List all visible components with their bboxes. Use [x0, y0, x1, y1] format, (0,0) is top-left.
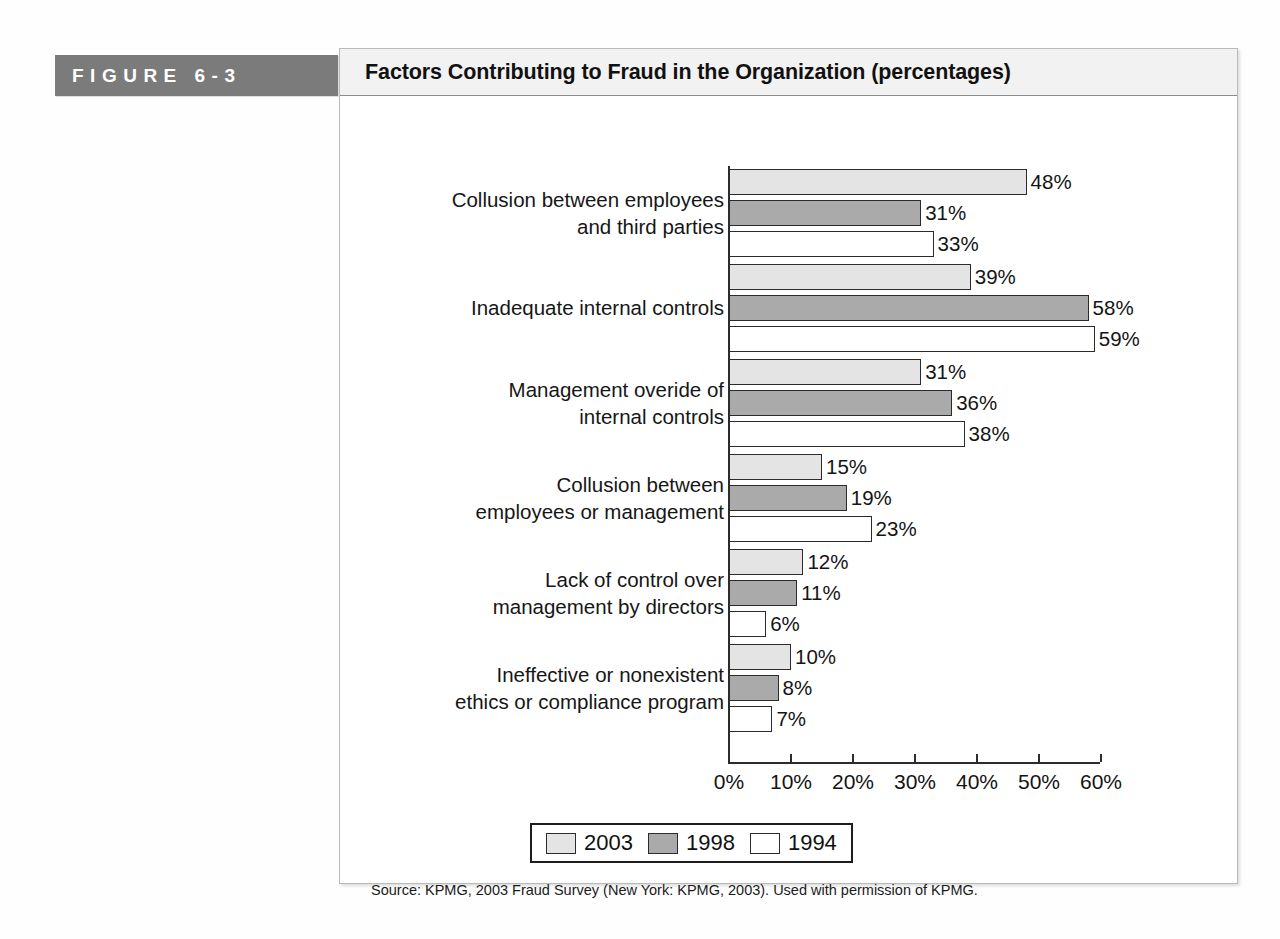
bar-value-label: 58% [1093, 296, 1134, 320]
bar-value-label: 7% [776, 707, 806, 731]
bar-group: Collusion between employees and third pa… [340, 166, 1239, 261]
bar-group: Management overide of internal controls3… [340, 356, 1239, 451]
bar-1994[interactable] [729, 326, 1095, 352]
bar-chart: Collusion between employees and third pa… [340, 96, 1239, 756]
legend-label: 1998 [686, 830, 735, 856]
bar-row[interactable]: 31% [729, 356, 1010, 387]
bar-value-label: 39% [975, 265, 1016, 289]
bar-2003[interactable] [729, 169, 1027, 195]
legend-swatch-2003 [546, 833, 576, 854]
bar-1994[interactable] [729, 706, 772, 732]
x-axis-tick [914, 754, 916, 762]
category-label: Ineffective or nonexistent ethics or com… [384, 661, 724, 715]
bar-1998[interactable] [729, 390, 952, 416]
bar-row[interactable]: 59% [729, 323, 1140, 354]
x-axis-tick-label: 0% [714, 770, 744, 794]
figure-number-tag: FIGURE 6-3 [55, 55, 338, 96]
bar-2003[interactable] [729, 549, 803, 575]
bar-value-label: 31% [925, 360, 966, 384]
bar-row[interactable]: 39% [729, 261, 1140, 292]
bar-1998[interactable] [729, 675, 779, 701]
legend-item-1998[interactable]: 1998 [648, 830, 735, 856]
bar-value-label: 36% [956, 391, 997, 415]
bar-value-label: 59% [1099, 327, 1140, 351]
plot-area: Collusion between employees and third pa… [340, 96, 1239, 884]
bar-value-label: 23% [876, 517, 917, 541]
source-note: Source: KPMG, 2003 Fraud Survey (New Yor… [371, 882, 978, 898]
category-label: Collusion between employees and third pa… [384, 186, 724, 240]
bar-row[interactable]: 8% [729, 672, 836, 703]
legend-item-1994[interactable]: 1994 [750, 830, 837, 856]
bar-value-label: 19% [851, 486, 892, 510]
bar-row[interactable]: 31% [729, 197, 1072, 228]
bar-stack: 48%31%33% [729, 166, 1072, 259]
x-axis-tick-label: 30% [894, 770, 936, 794]
x-axis-tick-label: 10% [770, 770, 812, 794]
bar-1998[interactable] [729, 580, 797, 606]
bar-row[interactable]: 38% [729, 418, 1010, 449]
legend-swatch-1994 [750, 833, 780, 854]
bar-group: Collusion between employees or managemen… [340, 451, 1239, 546]
x-axis-tick [790, 754, 792, 762]
bar-row[interactable]: 11% [729, 577, 848, 608]
x-axis-tick [728, 754, 730, 762]
bar-row[interactable]: 12% [729, 546, 848, 577]
bar-row[interactable]: 48% [729, 166, 1072, 197]
x-axis-tick [1100, 754, 1102, 762]
bar-1998[interactable] [729, 200, 921, 226]
bar-2003[interactable] [729, 264, 971, 290]
bar-stack: 10%8%7% [729, 641, 836, 734]
legend-label: 2003 [584, 830, 633, 856]
bar-row[interactable]: 33% [729, 228, 1072, 259]
x-axis-tick [852, 754, 854, 762]
figure-panel: Factors Contributing to Fraud in the Org… [339, 48, 1238, 884]
bar-row[interactable]: 36% [729, 387, 1010, 418]
bar-2003[interactable] [729, 454, 822, 480]
bar-1994[interactable] [729, 611, 766, 637]
bar-row[interactable]: 23% [729, 513, 917, 544]
bar-value-label: 48% [1031, 170, 1072, 194]
category-label: Collusion between employees or managemen… [384, 471, 724, 525]
bar-value-label: 6% [770, 612, 800, 636]
bar-row[interactable]: 15% [729, 451, 917, 482]
bar-stack: 31%36%38% [729, 356, 1010, 449]
bar-value-label: 10% [795, 645, 836, 669]
category-label: Management overide of internal controls [384, 376, 724, 430]
x-axis-tick-label: 20% [832, 770, 874, 794]
x-axis-tick-label: 50% [1018, 770, 1060, 794]
bar-2003[interactable] [729, 359, 921, 385]
bar-value-label: 15% [826, 455, 867, 479]
bar-1998[interactable] [729, 295, 1089, 321]
x-axis: 0%10%20%30%40%50%60% [728, 762, 1100, 764]
bar-1994[interactable] [729, 516, 872, 542]
bar-row[interactable]: 10% [729, 641, 836, 672]
bar-value-label: 11% [801, 581, 841, 605]
bar-1994[interactable] [729, 231, 934, 257]
category-label: Inadequate internal controls [384, 294, 724, 321]
bar-value-label: 38% [969, 422, 1010, 446]
x-axis-tick [976, 754, 978, 762]
bar-row[interactable]: 6% [729, 608, 848, 639]
x-axis-tick [1038, 754, 1040, 762]
bar-stack: 12%11%6% [729, 546, 848, 639]
bar-2003[interactable] [729, 644, 791, 670]
bar-value-label: 12% [807, 550, 848, 574]
bar-group: Ineffective or nonexistent ethics or com… [340, 641, 1239, 736]
bar-stack: 15%19%23% [729, 451, 917, 544]
bar-row[interactable]: 7% [729, 703, 836, 734]
x-axis-tick-label: 40% [956, 770, 998, 794]
bar-group: Inadequate internal controls39%58%59% [340, 261, 1239, 356]
figure-page: FIGURE 6-3 Factors Contributing to Fraud… [0, 0, 1280, 939]
bar-1998[interactable] [729, 485, 847, 511]
category-label: Lack of control over management by direc… [384, 566, 724, 620]
bar-groups: Collusion between employees and third pa… [340, 166, 1239, 736]
bar-row[interactable]: 58% [729, 292, 1140, 323]
bar-group: Lack of control over management by direc… [340, 546, 1239, 641]
x-axis-tick-label: 60% [1080, 770, 1122, 794]
bar-row[interactable]: 19% [729, 482, 917, 513]
chart-legend: 200319981994 [530, 823, 853, 863]
bar-1994[interactable] [729, 421, 965, 447]
figure-title-bar: Factors Contributing to Fraud in the Org… [340, 49, 1237, 96]
bar-value-label: 31% [925, 201, 966, 225]
legend-item-2003[interactable]: 2003 [546, 830, 633, 856]
